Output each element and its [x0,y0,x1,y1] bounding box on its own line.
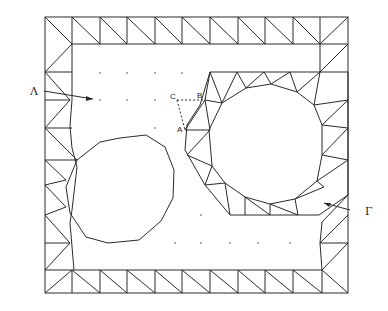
right-ring-outer [185,72,348,215]
point-b-label: B [197,91,202,100]
left-circle-obstacle [66,135,174,243]
ring-triangles [185,72,348,215]
gamma-arrowhead [324,203,331,207]
mesh-diagram: Λ Γ A B C [0,0,388,311]
left-strip-cells [45,44,77,270]
lambda-label: Λ [29,85,39,98]
top-strip-inner [72,44,320,72]
point-a-label: A [177,125,183,134]
outer-boundary [45,17,348,293]
bottom-strip-cells [45,195,348,293]
gamma-label: Γ [365,205,373,218]
point-c-label: C [170,92,176,101]
mesh-lines [44,17,350,293]
